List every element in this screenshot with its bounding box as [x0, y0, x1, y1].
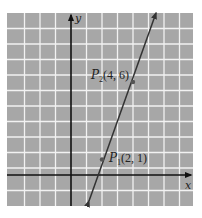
point-p1-marker	[100, 157, 104, 161]
point-p2-label: P2(4, 6)	[90, 68, 129, 84]
coordinate-plane: y x P2(4, 6) P1(2, 1)	[0, 0, 202, 218]
svg-text:P2(4, 6): P2(4, 6)	[90, 68, 129, 84]
y-axis-label: y	[74, 12, 82, 25]
point-p1-label: P1(2, 1)	[108, 151, 147, 167]
x-axis-label: x	[185, 179, 192, 192]
svg-text:P1(2, 1): P1(2, 1)	[108, 151, 147, 167]
grid-background	[7, 13, 193, 206]
point-p2-marker	[131, 80, 135, 84]
